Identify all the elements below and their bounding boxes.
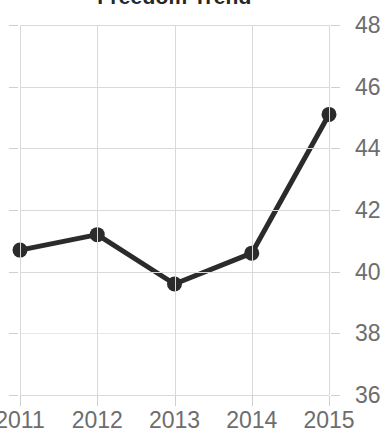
y-axis-tick-mark — [331, 148, 340, 149]
y-axis-tick-label: 40 — [355, 258, 389, 285]
y-axis-tick-label: 36 — [355, 382, 389, 409]
x-axis-tick-label: 2015 — [284, 407, 374, 434]
y-axis-tick-label: 42 — [355, 197, 389, 224]
y-axis-tick-mark — [9, 395, 18, 396]
y-axis-tick-mark — [331, 333, 340, 334]
gridline-vertical — [252, 25, 253, 395]
gridline-vertical — [329, 25, 330, 395]
x-axis-tick-mark — [175, 396, 176, 406]
y-axis-tick-mark — [331, 395, 340, 396]
y-axis-tick-label: 48 — [355, 12, 389, 39]
y-axis-tick-mark — [9, 25, 18, 26]
y-axis-tick-mark — [331, 210, 340, 211]
y-axis-tick-mark — [9, 272, 18, 273]
y-axis-tick-mark — [331, 272, 340, 273]
y-axis-tick-mark — [9, 210, 18, 211]
x-axis-tick-mark — [329, 396, 330, 406]
y-axis-tick-mark — [9, 333, 18, 334]
y-axis-tick-mark — [9, 148, 18, 149]
line-chart: Freedom Trend 48464442403836201120122013… — [0, 0, 391, 447]
gridline-vertical — [97, 25, 98, 395]
gridline-vertical — [175, 25, 176, 395]
x-axis-tick-mark — [20, 396, 21, 406]
y-axis-tick-mark — [331, 25, 340, 26]
y-axis-tick-label: 46 — [355, 73, 389, 100]
y-axis-tick-label: 44 — [355, 135, 389, 162]
chart-title: Freedom Trend — [0, 0, 349, 9]
gridline-vertical — [20, 25, 21, 395]
x-axis-tick-mark — [252, 396, 253, 406]
y-axis-tick-mark — [331, 87, 340, 88]
x-axis-tick-mark — [97, 396, 98, 406]
plot-area — [20, 25, 329, 395]
y-axis-tick-label: 38 — [355, 320, 389, 347]
y-axis-tick-mark — [9, 87, 18, 88]
